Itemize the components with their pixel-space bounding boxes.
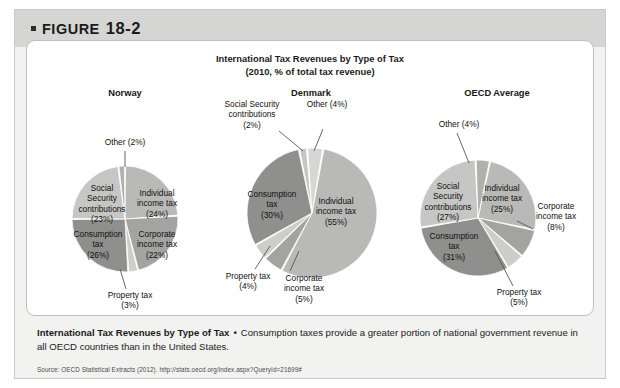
figure-caption: International Tax Revenues by Type of Ta… [37, 326, 585, 353]
square-bullet-icon [31, 26, 36, 31]
slice-label-norway-individual-income: Individual income tax (24%) [128, 188, 186, 219]
pie-leaders-oecd-average [399, 41, 595, 317]
slice-label-denmark-corporate-income: Corporate income tax (5%) [273, 273, 335, 304]
slice-label-oecd-individual-income: Individual income tax (25%) [473, 183, 531, 214]
figure-label: FIGURE 18-2 [31, 19, 141, 38]
slice-label-denmark-other: Other (4%) [296, 99, 358, 109]
figure-box: FIGURE 18-2 International Tax Revenues b… [14, 9, 606, 379]
pie-leaders-norway [27, 41, 223, 317]
slice-label-norway-other: Other (2%) [75, 137, 175, 147]
slice-label-oecd-social-security: Social Security contributions (27%) [417, 181, 479, 222]
slice-label-denmark-individual-income: Individual income tax (55%) [305, 196, 367, 227]
caption-bullet: • [233, 327, 236, 338]
slice-label-denmark-social-security: Social Security contributions (2%) [215, 99, 289, 130]
pie-block-oecd-average: OECD Average Other (4%) Social Security … [399, 41, 595, 315]
slice-label-oecd-other: Other (4%) [423, 119, 495, 129]
pie-block-norway: Norway Other (2%) Social Security contri… [27, 41, 223, 315]
caption-title: International Tax Revenues by Type of Ta… [37, 327, 229, 338]
slice-label-norway-social-security: Social Security contributions (23%) [71, 183, 133, 224]
slice-label-oecd-property: Property tax (5%) [483, 287, 555, 308]
slice-label-norway-corporate-income: Corporate income tax (22%) [128, 229, 186, 260]
figure-label-prefix: FIGURE [42, 21, 100, 37]
pie-block-denmark: Denmark Social Security contributions (2… [213, 41, 409, 315]
slice-label-oecd-corporate-income: Corporate income tax (8%) [525, 201, 587, 232]
slice-label-denmark-property: Property tax (4%) [215, 271, 281, 292]
figure-page: FIGURE 18-2 International Tax Revenues b… [0, 0, 620, 388]
slice-label-oecd-consumption: Consumption tax (31%) [419, 231, 489, 262]
chart-panel: International Tax Revenues by Type of Ta… [26, 40, 594, 316]
figure-source: Source: OECD Statistical Extracts (2012)… [37, 366, 585, 373]
slice-label-denmark-consumption: Consumption tax (30%) [239, 189, 305, 220]
slice-label-norway-consumption: Consumption tax (26%) [67, 229, 129, 260]
slice-label-norway-property: Property tax (3%) [93, 290, 167, 311]
pie-chart-group: Norway Other (2%) Social Security contri… [27, 41, 593, 315]
figure-number: 18-2 [106, 19, 141, 38]
